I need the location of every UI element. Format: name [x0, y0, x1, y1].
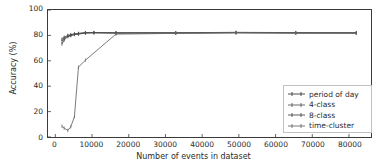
legend-label: period of day: [306, 91, 359, 99]
series-line-4-class: [62, 33, 356, 42]
legend-item[interactable]: period of day: [287, 89, 367, 100]
x-tick-label: 60000: [264, 141, 288, 149]
x-tick-label: 40000: [190, 141, 214, 149]
x-tick-label: 20000: [116, 141, 140, 149]
chart-legend: period of day4-class8-classtime-cluster: [283, 85, 372, 133]
legend-line-swatch: [287, 89, 306, 99]
x-tick-label: 80000: [338, 141, 362, 149]
legend-item[interactable]: 4-class: [287, 100, 367, 111]
legend-label: 8-class: [306, 112, 335, 120]
y-axis-tick-labels: 020406080100: [17, 0, 43, 167]
legend-line-swatch: [287, 110, 306, 120]
x-tick-label: 10000: [79, 141, 103, 149]
y-tick-label: 60: [33, 57, 43, 65]
y-tick-label: 40: [33, 83, 43, 91]
legend-label: time-cluster: [306, 122, 354, 130]
y-tick-label: 100: [29, 5, 43, 13]
y-tick-label: 0: [38, 134, 43, 142]
legend-item[interactable]: 8-class: [287, 110, 367, 121]
legend-line-swatch: [287, 121, 306, 131]
y-tick-label: 80: [33, 31, 43, 39]
x-tick-label: 50000: [227, 141, 251, 149]
legend-label: 4-class: [306, 101, 335, 109]
accuracy-vs-dataset-size-chart: 020406080100 010000200003000040000500006…: [0, 0, 387, 167]
y-axis-label: Accuracy (%): [10, 18, 18, 118]
legend-item[interactable]: time-cluster: [287, 121, 367, 132]
y-tick-label: 20: [33, 108, 43, 116]
x-tick-label: 0: [52, 141, 57, 149]
x-tick-label: 70000: [301, 141, 325, 149]
x-axis-label: Number of events in dataset: [0, 153, 387, 161]
legend-line-swatch: [287, 100, 306, 110]
x-tick-label: 30000: [153, 141, 177, 149]
